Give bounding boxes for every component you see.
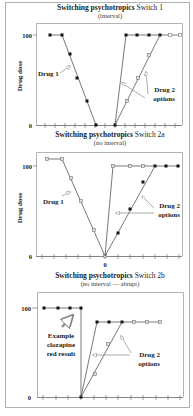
chart1-subtitle: (interval) <box>98 12 122 20</box>
chart1-ytick-100: 100 <box>22 32 32 39</box>
chart3-subtitle: (no interval — abrupt) <box>81 280 140 288</box>
chart1-ytick-0: 0 <box>29 122 32 129</box>
chart3-ytick-0: 0 <box>28 394 31 401</box>
chart2-drug2-label: Drug 2options <box>158 202 180 219</box>
chart1-drug2-label: Drug 2options <box>153 86 175 103</box>
chart3-example-label: Exampleclozapinered result <box>47 332 76 358</box>
chart2-subtitle: (no interval) <box>94 139 126 147</box>
chart1-drug1-markers <box>49 34 98 127</box>
chart2-drug1-label: Drug 1 <box>43 198 64 206</box>
chart-switch-2a: Switching psychotropics Switch 2a (no in… <box>16 130 183 268</box>
chart2-drug1-markers <box>46 158 107 258</box>
chart3-title: Switching psychotropics Switch 2b <box>55 271 165 280</box>
chart2-drug1-line <box>47 159 105 256</box>
chart3-ytick-100: 100 <box>21 305 31 312</box>
chart2-ytick-0: 0 <box>29 253 32 260</box>
chart2-drug2-gradual-markers <box>117 181 145 235</box>
chart1-y-axis-label: Drug dose <box>16 61 24 92</box>
chart1-drug1-label: Drug 1 <box>38 70 59 78</box>
chart1-drug2-gradual-line <box>115 35 160 125</box>
chart1-drug2-fast-line <box>115 35 180 125</box>
switching-psychotropics-figure: Switching psychotropics Switch 1 (interv… <box>0 0 193 416</box>
chart1-drug1-line <box>50 35 96 125</box>
chart3-drug2-label: Drug 2options <box>138 351 160 368</box>
chart2-y-axis-label: Drug dose <box>16 193 24 224</box>
chart2-drug2-gradual-line <box>105 166 155 256</box>
chart2-x-zero-label: 0 <box>103 261 106 268</box>
chart1-title: Switching psychotropics Switch 1 <box>57 3 163 12</box>
chart2-title: Switching psychotropics Switch 2a <box>55 130 165 139</box>
chart3-drug2-gradual-line <box>81 322 122 397</box>
chart-switch-2b: Switching psychotropics Switch 2b (no in… <box>21 271 183 401</box>
chart2-ytick-100: 100 <box>22 163 32 170</box>
chart-switch-1: Switching psychotropics Switch 1 (interv… <box>16 3 183 129</box>
